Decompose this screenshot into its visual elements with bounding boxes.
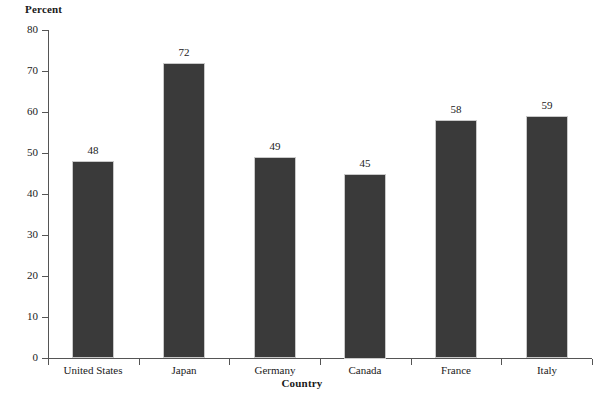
y-axis-title: Percent: [25, 3, 62, 15]
y-axis-tick: [42, 71, 49, 72]
y-axis-tick: [42, 153, 49, 154]
y-axis-tick: [42, 30, 49, 31]
y-axis-tick-label: 70: [8, 65, 38, 76]
y-axis-tick: [42, 276, 49, 277]
x-axis-category-label: Italy: [487, 364, 604, 377]
y-axis-tick-label: 60: [8, 106, 38, 117]
y-axis-tick-label: 20: [8, 270, 38, 281]
bar-value-label: 72: [154, 47, 214, 58]
bar: [254, 157, 296, 358]
y-axis-tick-label: 10: [8, 311, 38, 322]
bar: [344, 174, 386, 359]
y-axis-tick: [42, 235, 49, 236]
y-axis-tick-label: 50: [8, 147, 38, 158]
bar: [163, 63, 205, 358]
bar-value-label: 58: [426, 104, 486, 115]
bar-value-label: 59: [517, 100, 577, 111]
x-axis-title: Country: [0, 377, 604, 389]
y-axis-tick: [42, 112, 49, 113]
bar: [526, 116, 568, 358]
y-axis-tick-label: 40: [8, 188, 38, 199]
y-axis-tick-label: 0: [8, 352, 38, 363]
bar-value-label: 45: [335, 158, 395, 169]
y-axis-tick-label: 30: [8, 229, 38, 240]
y-axis-tick: [42, 194, 49, 195]
y-axis-tick-label: 80: [8, 24, 38, 35]
bar: [435, 120, 477, 358]
bar-value-label: 48: [63, 145, 123, 156]
y-axis-tick: [42, 317, 49, 318]
bar: [72, 161, 114, 358]
bar-value-label: 49: [245, 141, 305, 152]
bar-chart: Percent 01020304050607080 48United State…: [0, 0, 604, 396]
